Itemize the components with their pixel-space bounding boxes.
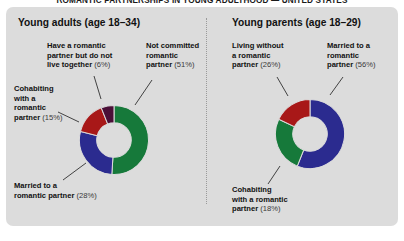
leader-right-married (330, 77, 343, 95)
label-right-cohabiting-with-romantic-partner: Cohabitingwith a romanticpartner (18%) (232, 185, 320, 214)
label-left-not-committed-romantic-partner: Not committedromanticpartner (51%) (146, 41, 208, 70)
label-pct: (6%) (94, 60, 110, 69)
label-left-cohabiting-with-romantic-partner: Cohabitingwith aromanticpartner (15%) (14, 84, 66, 122)
label-pct: (26%) (260, 60, 280, 69)
label-pct: (56%) (355, 60, 375, 69)
label-left-have-romantic-partner-not-living-together: Have a romanticpartner but do notlive to… (47, 41, 142, 70)
label-right-married-to-romantic-partner: Married to aromanticpartner (56%) (327, 41, 397, 70)
label-pct: (18%) (260, 204, 280, 213)
label-pct: (51%) (174, 60, 194, 69)
label-left-married-to-romantic-partner: Married to aromantic partner (28%) (14, 181, 110, 200)
infographic-figure: ROMANTIC PARTNERSHIPS IN YOUNG ADULTHOOD… (0, 0, 404, 241)
label-text: Married to aromantic partner (14, 181, 76, 200)
leader-right-cohabiting (268, 166, 280, 184)
leader-left-not-committed (135, 80, 152, 105)
leader-left-married (63, 163, 86, 180)
leader-right-living-without (277, 77, 288, 96)
label-right-living-without-romantic-partner: Living withouta romanticpartner (26%) (232, 41, 310, 70)
label-pct: (28%) (76, 191, 96, 200)
leader-left-have-partner (94, 76, 101, 99)
label-pct: (15%) (42, 113, 62, 122)
